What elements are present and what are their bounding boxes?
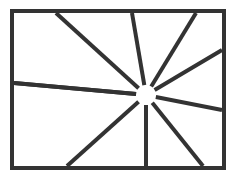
figure-canvas bbox=[0, 0, 238, 179]
rectangle-frame bbox=[12, 11, 224, 168]
radiating-lines-figure bbox=[0, 0, 238, 179]
